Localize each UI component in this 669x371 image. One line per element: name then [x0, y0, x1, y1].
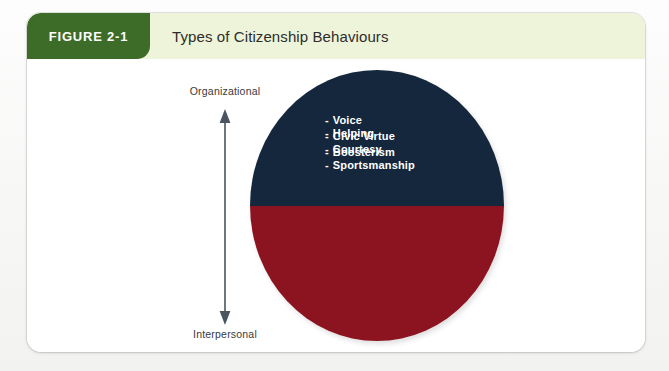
circle-half-interpersonal [250, 206, 504, 342]
dash-bullet: - [325, 159, 333, 171]
list-item-label: Helping [333, 127, 374, 139]
list-item: -Sportsmanship [325, 157, 415, 173]
figure-number-badge: FIGURE 2-1 [27, 13, 150, 59]
list-item: -Courtesy [325, 141, 415, 157]
list-item-label: Sportsmanship [333, 159, 415, 171]
figure-card: FIGURE 2-1 Types of Citizenship Behaviou… [27, 13, 645, 352]
interpersonal-behaviour-list: -Helping -Courtesy -Sportsmanship [325, 125, 415, 173]
figure-header: FIGURE 2-1 Types of Citizenship Behaviou… [27, 13, 645, 59]
figure-title: Types of Citizenship Behaviours [150, 13, 389, 59]
dash-bullet: - [325, 127, 333, 139]
list-item: -Helping [325, 125, 415, 141]
figure-body: Organizational Interpersonal -Voice -Civ… [27, 59, 645, 352]
dash-bullet: - [325, 143, 333, 155]
list-item-label: Courtesy [333, 143, 382, 155]
figure-number-label: FIGURE 2-1 [49, 29, 129, 44]
citizenship-behaviours-circle: -Voice -Civic Virtue -Boosterism -Helpin… [250, 70, 504, 341]
